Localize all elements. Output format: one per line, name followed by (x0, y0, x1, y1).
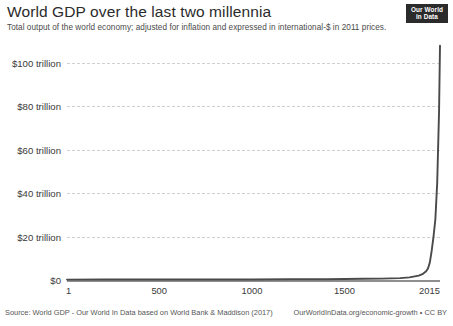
footer-source-text: Source: World GDP - Our World In Data ba… (5, 308, 273, 317)
plot-area: $0$20 trillion$40 trillion$60 trillion$8… (0, 0, 453, 326)
gdp-line-series (67, 46, 440, 280)
series-svg (0, 0, 453, 326)
footer-link-text[interactable]: OurWorldInData.org/economic-growth • CC … (293, 308, 447, 317)
chart-container: World GDP over the last two millennia To… (0, 0, 453, 326)
